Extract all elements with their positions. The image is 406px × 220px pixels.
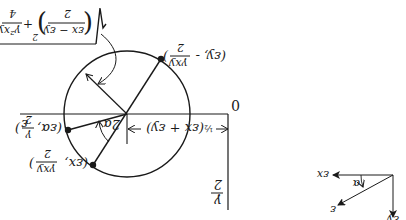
svg-text:(εα,: (εα, (37, 121, 62, 136)
svg-text:(εy, -: (εy, - (196, 49, 226, 64)
svg-text:2: 2 (32, 32, 39, 42)
svg-text:): ) (163, 49, 169, 64)
angle-2alpha-label: 2α (103, 117, 121, 132)
y-axis-label: εy (386, 213, 399, 220)
svg-text:γxy: γxy (168, 57, 188, 70)
rotated-figure-group: 2α ε 0 γ 2 ½ (εx + εy) (εx, γxy 2 ) (0, 7, 399, 220)
svg-text:γxy: γxy (36, 163, 56, 176)
diameter-xy (93, 59, 161, 165)
svg-text:): ) (29, 156, 35, 171)
mohr-circle-diagram: 2α ε 0 γ 2 ½ (εx + εy) (εx, γxy 2 ) (0, 7, 240, 210)
radius-formula: ( εx − εy 2 ) 2 + γ²xy 4 (0, 7, 116, 84)
sqrt-sign (96, 8, 106, 44)
svg-text:2: 2 (177, 41, 185, 54)
formula-pointer (98, 34, 116, 84)
svg-text:): ) (15, 121, 21, 136)
rotated-axis (338, 175, 393, 205)
svg-text:2: 2 (64, 7, 72, 20)
point-general (65, 127, 71, 133)
svg-text:2: 2 (214, 177, 223, 192)
mohr-circle-figure: 2α ε 0 γ 2 ½ (εx + εy) (εx, γxy 2 ) (0, 0, 406, 220)
point-x (90, 162, 96, 168)
svg-text:γ: γ (25, 129, 32, 142)
svg-text:γ²xy: γ²xy (0, 24, 21, 37)
strain-axes-diagram: α εx εy ε (316, 168, 399, 220)
point-x-label: (εx, γxy 2 ) (29, 147, 88, 176)
svg-text:(εx,: (εx, (64, 156, 88, 171)
gamma-axis-label: γ 2 (211, 177, 223, 209)
x-axis-label: εx (316, 168, 329, 181)
svg-text:γ: γ (214, 194, 222, 209)
alpha-label: α (352, 177, 360, 190)
rotated-axis-label: ε (330, 203, 336, 216)
svg-text:4: 4 (9, 7, 17, 20)
point-y-label: (εy, - γxy 2 ) (163, 41, 226, 70)
origin-label: 0 (231, 97, 240, 113)
svg-text:2: 2 (25, 113, 33, 126)
center-label: ½ (εx + εy) (146, 121, 213, 136)
alpha-arc (361, 175, 363, 187)
radius-arrow (86, 74, 127, 114)
svg-text:+: + (23, 17, 33, 31)
svg-text:(εx + εy): (εx + εy) (146, 121, 204, 136)
svg-text:εx − εy: εx − εy (43, 24, 84, 37)
svg-text:2: 2 (44, 147, 52, 160)
svg-text:½: ½ (204, 123, 213, 133)
